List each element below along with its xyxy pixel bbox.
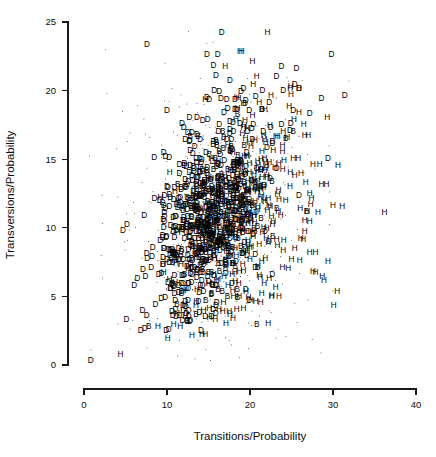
data-point-H: H xyxy=(265,319,271,328)
data-point-H: H xyxy=(303,178,309,187)
background-speck xyxy=(145,134,146,135)
data-point-D: D xyxy=(187,317,193,326)
background-speck xyxy=(118,197,119,198)
data-point-D: D xyxy=(144,254,150,263)
background-speck xyxy=(205,349,206,350)
data-point-D: D xyxy=(173,212,179,221)
data-point-D: D xyxy=(204,163,210,172)
data-point-D: D xyxy=(209,157,215,166)
data-point-H: H xyxy=(381,208,387,217)
background-speck xyxy=(225,316,226,317)
y-tick-label: 5 xyxy=(51,291,56,302)
data-point-H: H xyxy=(256,271,262,280)
data-point-B: B xyxy=(269,177,275,186)
data-point-D: D xyxy=(160,231,166,240)
background-speck xyxy=(201,322,202,323)
data-point-H: H xyxy=(276,186,282,195)
data-point-H: H xyxy=(267,121,273,130)
background-speck xyxy=(147,168,148,169)
data-point-H: H xyxy=(241,152,247,161)
background-speck xyxy=(102,278,103,279)
data-point-H: H xyxy=(273,132,279,141)
data-point-D: D xyxy=(144,40,150,49)
data-point-D: D xyxy=(181,159,187,168)
x-tick-label: 20 xyxy=(245,399,256,410)
background-speck xyxy=(302,80,303,81)
background-speck xyxy=(180,95,181,96)
data-point-B: B xyxy=(238,242,244,251)
data-point-H: H xyxy=(324,113,330,122)
data-point-D: D xyxy=(186,113,192,122)
data-point-B: B xyxy=(290,127,296,136)
background-speck xyxy=(321,353,322,354)
background-speck xyxy=(188,31,189,32)
background-speck xyxy=(329,224,330,225)
background-speck xyxy=(200,78,201,79)
scatter-plot-figure: DDDDDDDDDDDDDDDDDDDDDDDDDDDDDDDDDDDDDDDD… xyxy=(0,0,436,457)
background-speck xyxy=(298,136,299,137)
background-speck xyxy=(259,316,260,317)
data-point-H: H xyxy=(298,169,304,178)
data-point-D: D xyxy=(123,315,129,324)
data-point-D: D xyxy=(186,168,192,177)
data-point-D: D xyxy=(178,185,184,194)
data-point-D: D xyxy=(296,191,302,200)
background-speck xyxy=(349,81,350,82)
data-point-H: H xyxy=(165,334,171,343)
background-speck xyxy=(141,182,142,183)
data-point-H: H xyxy=(207,176,213,185)
background-speck xyxy=(284,185,285,186)
background-speck xyxy=(177,355,178,356)
data-point-H: H xyxy=(167,168,173,177)
data-point-D: D xyxy=(211,271,217,280)
background-speck xyxy=(195,359,196,360)
data-point-B: B xyxy=(258,182,264,191)
y-tick-label: 20 xyxy=(45,85,56,96)
data-point-H: H xyxy=(323,180,329,189)
background-speck xyxy=(307,154,308,155)
background-speck xyxy=(231,345,232,346)
data-point-D: D xyxy=(274,72,280,81)
data-point-H: H xyxy=(236,279,242,288)
data-point-H: H xyxy=(262,135,268,144)
background-speck xyxy=(197,340,198,341)
x-tick-label: 0 xyxy=(81,399,86,410)
data-point-H: H xyxy=(291,115,297,124)
data-point-D: D xyxy=(187,196,193,205)
data-point-H: H xyxy=(301,120,307,129)
data-point-D: D xyxy=(200,116,206,125)
background-speck xyxy=(271,312,272,313)
background-speck xyxy=(252,311,253,312)
data-point-H: H xyxy=(248,142,254,151)
background-speck xyxy=(249,280,250,281)
y-axis: 0510152025 xyxy=(45,16,68,370)
background-speck xyxy=(287,77,288,78)
data-point-H: H xyxy=(240,304,246,313)
data-point-D: D xyxy=(176,194,182,203)
x-axis-title: Transitions/Probability xyxy=(194,430,307,442)
data-point-H: H xyxy=(168,246,174,255)
background-speck xyxy=(329,192,330,193)
data-point-H: H xyxy=(266,201,272,210)
background-speck xyxy=(271,252,272,253)
background-speck xyxy=(192,289,193,290)
background-speck xyxy=(126,213,127,214)
data-point-D: D xyxy=(240,84,246,93)
data-point-D: D xyxy=(279,62,285,71)
data-point-B: B xyxy=(240,192,246,201)
background-speck xyxy=(147,347,148,348)
data-points-layer: DDDDDDDDDDDDDDDDDDDDDDDDDDDDDDDDDDDDDDDD… xyxy=(88,28,388,365)
data-point-H: H xyxy=(175,228,181,237)
data-point-H: H xyxy=(222,62,228,71)
x-tick-label: 40 xyxy=(411,399,422,410)
data-point-D: D xyxy=(124,220,130,229)
data-point-H: H xyxy=(310,160,316,169)
data-point-D: D xyxy=(229,279,235,288)
data-point-B: B xyxy=(193,310,199,319)
data-point-H: H xyxy=(263,234,269,243)
background-speck xyxy=(101,255,102,256)
background-speck xyxy=(134,213,135,214)
y-tick-label: 15 xyxy=(45,154,56,165)
data-point-H: H xyxy=(279,147,285,156)
data-point-D: D xyxy=(213,71,219,80)
